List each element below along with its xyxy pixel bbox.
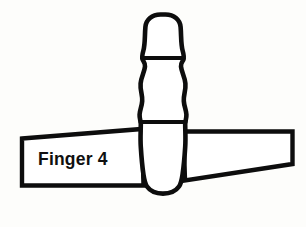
finger-diagram: Finger 4 (0, 0, 306, 227)
diagram-canvas: Finger 4 (0, 0, 306, 227)
finger-label-text: Finger 4 (38, 149, 108, 169)
finger-bone-outline (140, 15, 187, 194)
right-wing-banner (184, 132, 293, 181)
